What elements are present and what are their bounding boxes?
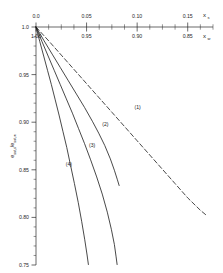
y-axis-ticklabel: 0.95 bbox=[19, 72, 29, 78]
chart-svg: 0.00.050.100.15 1.000.950.900.85 1.00.95… bbox=[0, 0, 223, 273]
curve-label: (3) bbox=[89, 142, 95, 148]
x-axis-top-ticklabel: 0.10 bbox=[132, 13, 142, 19]
y-axis-ticklabel: 0.80 bbox=[19, 214, 29, 220]
curve-label: (2) bbox=[102, 121, 108, 127]
curve-label: (4) bbox=[66, 161, 72, 167]
y-axis-ticklabel: 0.90 bbox=[19, 119, 29, 125]
chart-figure: 0.00.050.100.15 1.000.950.900.85 1.00.95… bbox=[0, 0, 223, 273]
x-axis-top-label: x bbox=[203, 12, 206, 18]
x-axis-secondary-ticklabel: 0.95 bbox=[82, 33, 92, 39]
y-axis-ticklabel: 0.85 bbox=[19, 167, 29, 173]
y-axis-ticklabel: 0.75 bbox=[19, 262, 29, 268]
x-axis-secondary-label: x bbox=[203, 33, 206, 39]
x-axis-secondary-ticklabel: 0.90 bbox=[132, 33, 142, 39]
x-axis-top-label-subscript: s bbox=[207, 15, 209, 20]
x-axis-top-ticklabel: 0.15 bbox=[183, 13, 193, 19]
y-axis-ticklabel: 1.0 bbox=[22, 24, 29, 30]
x-axis-top-ticklabel: 0.0 bbox=[32, 13, 39, 19]
x-axis-secondary-ticklabel: 0.85 bbox=[183, 33, 193, 39]
x-axis-top-ticklabel: 0.05 bbox=[82, 13, 92, 19]
x-axis-secondary-label-subscript: w bbox=[207, 36, 210, 41]
curve-label: (1) bbox=[135, 104, 141, 110]
